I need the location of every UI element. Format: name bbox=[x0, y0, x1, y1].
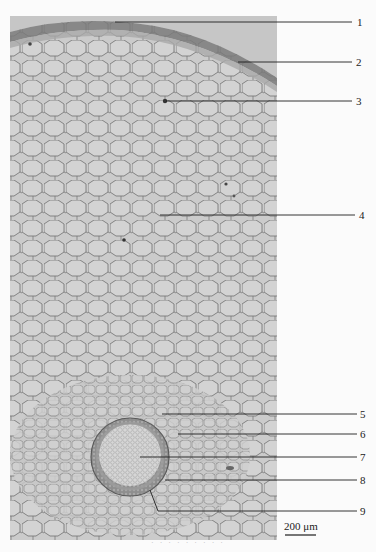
micrograph-photo bbox=[10, 16, 277, 540]
dark-cell bbox=[233, 195, 236, 198]
label-5: 5 bbox=[360, 408, 366, 420]
dark-cell bbox=[226, 466, 234, 470]
root-cross-section-figure: 1 2 3 4 5 6 7 8 9 200 μm bbox=[0, 0, 376, 552]
dark-cell bbox=[122, 238, 126, 242]
label-7: 7 bbox=[360, 451, 366, 463]
label-2: 2 bbox=[356, 56, 362, 68]
label-3: 3 bbox=[356, 95, 362, 107]
scale-bar: 200 μm bbox=[284, 520, 318, 535]
vascular-cylinder bbox=[99, 424, 161, 486]
figure-caption: · · · · · · · · · bbox=[0, 538, 376, 547]
dark-cell bbox=[28, 42, 32, 46]
label-1: 1 bbox=[357, 16, 363, 28]
label-numbers: 1 2 3 4 5 6 7 8 9 bbox=[356, 16, 366, 517]
label-8: 8 bbox=[360, 474, 366, 486]
label-4: 4 bbox=[359, 209, 365, 221]
scale-bar-label: 200 μm bbox=[284, 520, 318, 532]
dark-cell bbox=[224, 182, 227, 185]
label-6: 6 bbox=[360, 428, 366, 440]
label-9: 9 bbox=[360, 505, 366, 517]
